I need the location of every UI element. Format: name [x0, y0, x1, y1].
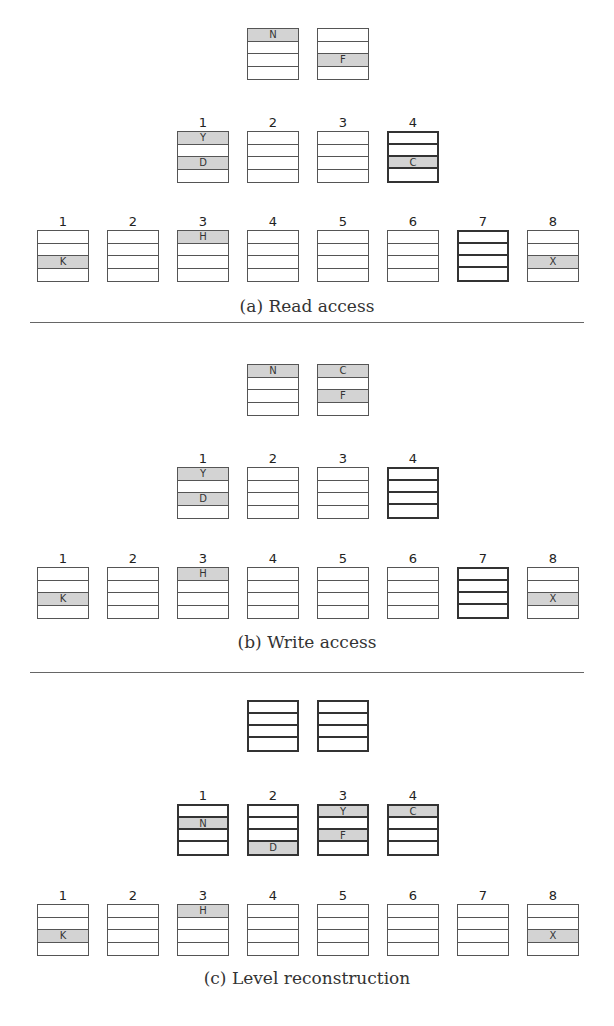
empty-slot [459, 593, 507, 605]
empty-slot [108, 231, 158, 244]
empty-slot [389, 505, 437, 517]
empty-slot [318, 493, 368, 506]
bucket-level2-4 [247, 904, 299, 956]
empty-slot [248, 269, 298, 282]
empty-slot [459, 569, 507, 581]
empty-slot [389, 481, 437, 493]
bucket-level2-3: H [177, 904, 229, 956]
bucket-number: 1 [37, 888, 89, 903]
empty-slot [388, 256, 438, 269]
bucket-level1-3 [317, 467, 369, 519]
empty-slot [249, 726, 297, 738]
empty-slot [248, 581, 298, 594]
empty-slot [178, 606, 228, 619]
panel-caption: (c) Level reconstruction [0, 968, 614, 988]
bucket-level1-3 [317, 131, 369, 183]
empty-slot [318, 145, 368, 158]
filled-slot: H [178, 568, 228, 581]
bucket-number: 1 [37, 214, 89, 229]
empty-slot [248, 54, 298, 67]
empty-slot [38, 943, 88, 956]
bucket-level2-1: K [37, 567, 89, 619]
empty-slot [178, 593, 228, 606]
filled-slot: F [318, 54, 368, 67]
bucket-level0-1 [247, 700, 299, 752]
empty-slot [459, 605, 507, 617]
empty-slot [458, 943, 508, 956]
empty-slot [319, 714, 367, 726]
empty-slot [318, 481, 368, 494]
bucket-level2-8: X [527, 567, 579, 619]
empty-slot [318, 468, 368, 481]
empty-slot [179, 806, 227, 818]
bucket-number: 7 [457, 551, 509, 566]
bucket-level0-2: F [317, 28, 369, 80]
bucket-number: 2 [247, 788, 299, 803]
bucket-number: 4 [387, 115, 439, 130]
filled-slot: K [38, 593, 88, 606]
empty-slot [108, 593, 158, 606]
bucket-level2-2 [107, 904, 159, 956]
bucket-number: 3 [317, 451, 369, 466]
bucket-level1-4: C [387, 804, 439, 856]
bucket-number: 2 [107, 551, 159, 566]
bucket-level2-8: X [527, 904, 579, 956]
empty-slot [248, 378, 298, 391]
filled-slot: C [389, 157, 437, 169]
bucket-level2-1: K [37, 904, 89, 956]
bucket-level2-2 [107, 230, 159, 282]
bucket-level2-3: H [177, 567, 229, 619]
empty-slot [528, 269, 578, 282]
empty-slot [38, 269, 88, 282]
bucket-level1-2: D [247, 804, 299, 856]
empty-slot [388, 269, 438, 282]
filled-slot: X [528, 593, 578, 606]
bucket-number: 4 [247, 551, 299, 566]
empty-slot [458, 905, 508, 918]
empty-slot [318, 378, 368, 391]
empty-slot [318, 918, 368, 931]
empty-slot [318, 581, 368, 594]
empty-slot [248, 918, 298, 931]
filled-slot: H [178, 905, 228, 918]
bucket-level1-2 [247, 467, 299, 519]
empty-slot [528, 581, 578, 594]
bucket-number: 1 [177, 451, 229, 466]
bucket-number: 3 [177, 551, 229, 566]
separator-line [30, 672, 584, 673]
empty-slot [248, 145, 298, 158]
empty-slot [389, 145, 437, 157]
bucket-level2-5 [317, 230, 369, 282]
filled-slot: N [179, 818, 227, 830]
empty-slot [388, 930, 438, 943]
empty-slot [248, 568, 298, 581]
empty-slot [318, 506, 368, 519]
empty-slot [528, 231, 578, 244]
empty-slot [318, 905, 368, 918]
empty-slot [248, 390, 298, 403]
empty-slot [178, 943, 228, 956]
empty-slot [108, 930, 158, 943]
empty-slot [178, 244, 228, 257]
empty-slot [108, 244, 158, 257]
empty-slot [318, 943, 368, 956]
empty-slot [528, 918, 578, 931]
empty-slot [318, 157, 368, 170]
panel-caption: (a) Read access [0, 296, 614, 316]
empty-slot [388, 581, 438, 594]
empty-slot [38, 231, 88, 244]
bucket-number: 2 [247, 115, 299, 130]
empty-slot [248, 42, 298, 55]
bucket-number: 8 [527, 888, 579, 903]
empty-slot [528, 244, 578, 257]
filled-slot: X [528, 930, 578, 943]
empty-slot [108, 905, 158, 918]
bucket-number: 3 [177, 214, 229, 229]
empty-slot [319, 726, 367, 738]
empty-slot [319, 818, 367, 830]
empty-slot [248, 132, 298, 145]
empty-slot [178, 256, 228, 269]
empty-slot [318, 67, 368, 80]
bucket-number: 1 [177, 115, 229, 130]
empty-slot [318, 568, 368, 581]
